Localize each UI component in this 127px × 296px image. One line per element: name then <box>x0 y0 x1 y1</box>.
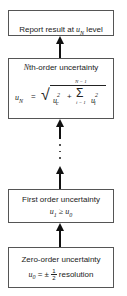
sum-upper: N − 1 <box>75 79 87 85</box>
report-result-box: Report result at uN level <box>8 10 114 36</box>
sum-icon: Σ <box>76 86 83 100</box>
formula-lhs-sub: N <box>19 98 23 104</box>
formula-plus: + <box>67 92 72 102</box>
term2-sup: 2 <box>95 92 98 98</box>
nth-order-box: Nth-order uncertainty uN = √ u2c + N − 1… <box>8 58 114 119</box>
zero-order-formula: u0 = ± 12 resolution <box>9 268 113 282</box>
first-order-box: First order uncertainty u1 ≥ u0 <box>8 189 114 223</box>
first-op: ≥ <box>57 207 65 216</box>
term2-sub: i <box>94 100 96 106</box>
arrow-zero-to-first <box>59 229 61 247</box>
arrow-nth-to-report <box>59 42 61 58</box>
term1-sup: 2 <box>57 92 60 98</box>
nth-order-title-rest: th-order uncertainty <box>29 63 98 72</box>
dot <box>59 144 61 146</box>
formula-lhs: uN <box>15 93 23 106</box>
dot <box>59 151 61 153</box>
first-rhs-sub: 0 <box>69 212 72 218</box>
sqrt-icon: √ <box>41 85 50 105</box>
nth-order-formula: uN = √ u2c + N − 1 Σ i = 1 u2i <box>9 79 113 113</box>
term2: u2i <box>91 92 96 108</box>
continuation-dots <box>59 144 61 164</box>
zero-rest: resolution <box>57 270 94 279</box>
term1-sub: c <box>56 100 59 106</box>
first-order-title: First order uncertainty <box>9 195 113 205</box>
formula-equals: = <box>31 92 36 102</box>
report-label-suffix: level <box>84 25 103 34</box>
arrow-dots-to-nth <box>59 125 61 139</box>
first-order-formula: u1 ≥ u0 <box>9 207 113 220</box>
report-label: Report result at uN level <box>19 25 103 34</box>
sum-lower: i = 1 <box>76 100 86 106</box>
dot <box>59 157 61 159</box>
nth-order-title: Nth-order uncertainty <box>9 63 113 73</box>
arrow-first-to-dots <box>59 172 61 189</box>
report-label-prefix: Report result at <box>19 25 76 34</box>
zero-order-title: Zero-order uncertainty <box>9 255 113 265</box>
zero-eq: = ± <box>36 270 52 279</box>
zero-order-box: Zero-order uncertainty u0 = ± 12 resolut… <box>8 247 114 288</box>
term1: u2c <box>53 92 59 108</box>
